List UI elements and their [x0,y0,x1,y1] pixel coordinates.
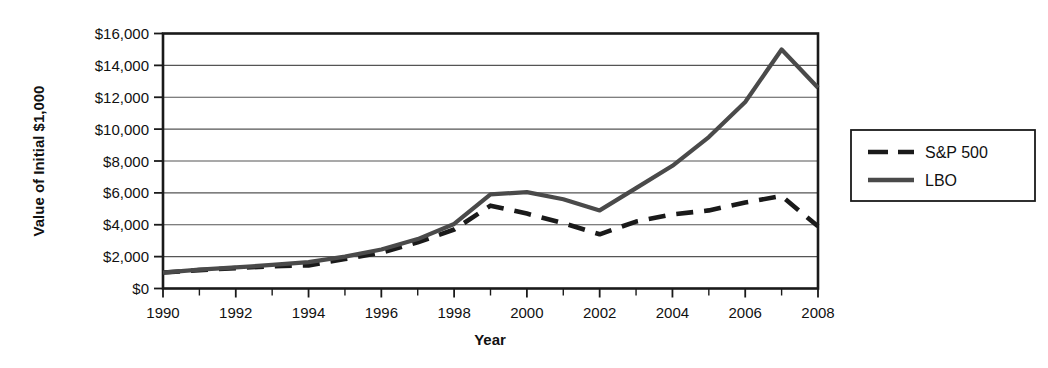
x-axis-tick-label: 1992 [219,304,252,321]
y-axis-tick-label: $12,000 [95,89,149,106]
legend: S&P 500 LBO [851,130,1035,201]
chart-figure: $0$2,000$4,000$6,000$8,000$10,000$12,000… [0,0,1048,368]
series-line-s-p-500 [163,196,818,273]
y-axis-tick-labels-group: $0$2,000$4,000$6,000$8,000$10,000$12,000… [95,25,149,297]
legend-label-sp500: S&P 500 [925,144,988,161]
x-axis-tick-label: 1996 [365,304,398,321]
x-axis-tick-label: 1990 [146,304,179,321]
y-axis-tick-label: $10,000 [95,121,149,138]
x-axis-tick-label: 2004 [656,304,689,321]
x-axis-tick-label: 1994 [292,304,325,321]
y-axis-tick-label: $0 [132,280,149,297]
y-axis-tick-label: $6,000 [103,184,149,201]
x-axis-tick-labels-group: 1990199219941996199820002002200420062008 [146,304,834,321]
x-axis-tick-label: 2008 [801,304,834,321]
y-axis-tick-label: $8,000 [103,153,149,170]
x-axis-tick-label: 1998 [437,304,470,321]
gridlines-group [163,65,818,256]
y-axis-title: Value of Initial $1,000 [30,86,47,237]
x-axis-tick-label: 2006 [729,304,762,321]
x-axis-title: Year [474,331,506,348]
x-axis-tick-label: 2002 [583,304,616,321]
x-axis-tick-label: 2000 [510,304,543,321]
y-axis-ticks-group [154,34,163,289]
y-axis-tick-label: $4,000 [103,216,149,233]
line-chart: $0$2,000$4,000$6,000$8,000$10,000$12,000… [0,0,1048,368]
y-axis-tick-label: $14,000 [95,57,149,74]
y-axis-tick-label: $16,000 [95,25,149,42]
legend-label-lbo: LBO [925,172,957,189]
legend-border [851,130,1035,201]
y-axis-tick-label: $2,000 [103,248,149,265]
x-axis-ticks-group [163,289,818,298]
